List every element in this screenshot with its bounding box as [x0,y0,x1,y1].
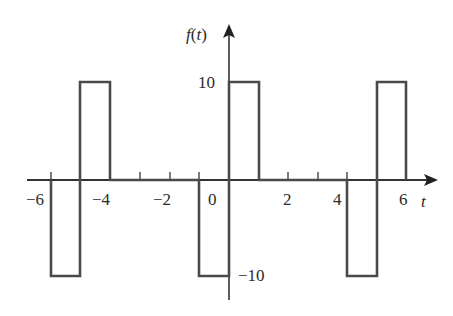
x-axis-label: t [421,192,427,211]
step-waveform-chart: f(t) t 10 −10 −6 −4 −2 0 2 4 6 [0,0,453,316]
y-axis-label: f(t) [186,25,207,44]
waveform-line [51,82,406,276]
x-tick-label-0: 0 [208,190,217,209]
x-tick-label-2: 2 [283,190,292,209]
x-tick-label-4: 4 [333,190,342,209]
x-tick-label-neg2: −2 [153,190,171,209]
x-tick-label-6: 6 [399,190,408,209]
x-tick-label-neg4: −4 [92,190,111,209]
x-tick-label-neg6: −6 [26,190,44,209]
y-tick-label-10: 10 [198,73,215,92]
y-tick-label-neg10: −10 [238,266,265,285]
